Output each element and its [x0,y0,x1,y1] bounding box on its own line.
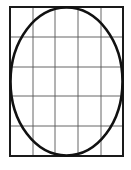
background [0,0,131,170]
ellipse-grid-diagram [0,0,131,170]
